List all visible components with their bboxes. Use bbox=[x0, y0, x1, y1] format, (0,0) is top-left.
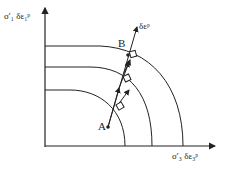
x-axis-label: σ′₃ δε₃ᵖ bbox=[172, 152, 198, 161]
yield-surface-inner bbox=[45, 90, 125, 146]
strain-increment-label: δεᵖ bbox=[139, 22, 150, 31]
yield-surface-outer bbox=[45, 46, 183, 146]
y-axis-label: σ′₁ δε₁ᵖ bbox=[4, 12, 30, 21]
normal-box-1 bbox=[116, 102, 124, 110]
normal-box-3 bbox=[129, 50, 136, 57]
point-b bbox=[126, 53, 130, 57]
point-a bbox=[106, 125, 110, 129]
point-a-label: A bbox=[98, 121, 106, 132]
plastic-strain-increment-arrows bbox=[117, 62, 129, 106]
yield-surface-middle bbox=[45, 67, 152, 146]
point-b-label: B bbox=[118, 38, 125, 49]
diagram-canvas: σ′₁ δε₁ᵖ σ′₃ δε₃ᵖ δεᵖ A B bbox=[0, 0, 232, 173]
diagram-svg bbox=[0, 0, 232, 173]
